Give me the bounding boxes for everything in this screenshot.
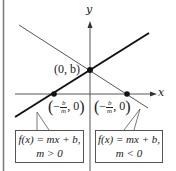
callout-positive-slope: f(x) = mx + b, m > 0 xyxy=(15,130,84,163)
x-intercept-label-right: (−bm, 0) xyxy=(94,98,131,116)
x-intercept-point-right xyxy=(124,91,130,97)
callout-condition: m < 0 xyxy=(96,146,162,160)
coordinate-suffix: , 0 xyxy=(113,99,125,113)
linear-function-diagram: y x (0, b) (−bm, 0) (−bm, 0) f(x) = mx +… xyxy=(0,0,176,171)
coordinate-suffix: , 0 xyxy=(67,99,79,113)
y-intercept-label: (0, b) xyxy=(54,62,80,77)
x-intercept-point-left xyxy=(51,91,57,97)
minus-sign: − xyxy=(99,99,106,113)
y-axis-label: y xyxy=(86,3,92,16)
x-axis-arrow-icon xyxy=(150,92,157,97)
callout-negative-slope: f(x) = mx + b, m < 0 xyxy=(95,130,163,163)
callout-equation: f(x) = mx + b, xyxy=(96,132,162,146)
x-intercept-label-left: (−bm, 0) xyxy=(48,98,85,116)
y-intercept-point xyxy=(87,67,93,73)
callout-equation: f(x) = mx + b, xyxy=(16,132,83,146)
x-axis-label: x xyxy=(158,86,164,99)
minus-sign: − xyxy=(53,99,60,113)
callout-condition: m > 0 xyxy=(16,146,83,160)
y-axis-arrow-icon xyxy=(88,21,93,28)
